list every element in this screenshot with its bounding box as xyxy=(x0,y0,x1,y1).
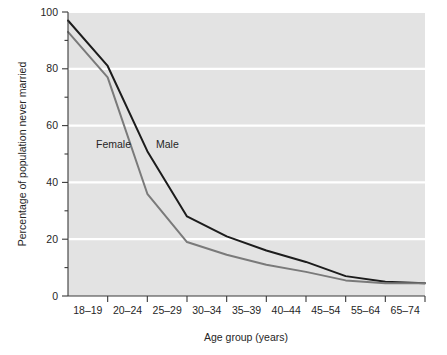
chart-container: 020406080100 18–1920–2425–2930–3435–3940… xyxy=(0,0,447,355)
x-axis-title: Age group (years) xyxy=(204,331,288,343)
y-tick-label: 40 xyxy=(46,176,58,188)
x-axis-tick-labels: 18–1920–2425–2930–3435–3940–4445–5455–64… xyxy=(73,304,420,316)
x-tick-label: 30–34 xyxy=(192,304,221,316)
line-chart: 020406080100 18–1920–2425–2930–3435–3940… xyxy=(0,0,447,355)
x-tick-label: 40–44 xyxy=(272,304,301,316)
x-axis-ticks xyxy=(108,296,425,302)
y-axis-title: Percentage of population never married xyxy=(16,62,28,247)
plot-background xyxy=(68,12,425,296)
x-tick-label: 55–64 xyxy=(351,304,380,316)
y-tick-label: 80 xyxy=(46,62,58,74)
x-tick-label: 65–74 xyxy=(391,304,420,316)
y-tick-label: 100 xyxy=(40,6,58,18)
series-label-female: Female xyxy=(96,138,131,150)
y-axis-ticks: 020406080100 xyxy=(40,6,68,302)
x-tick-label: 20–24 xyxy=(113,304,142,316)
series-label-male: Male xyxy=(156,138,179,150)
y-tick-label: 60 xyxy=(46,119,58,131)
x-tick-label: 35–39 xyxy=(232,304,261,316)
y-tick-label: 0 xyxy=(52,290,58,302)
x-tick-label: 25–29 xyxy=(153,304,182,316)
y-tick-label: 20 xyxy=(46,233,58,245)
x-tick-label: 45–54 xyxy=(311,304,340,316)
x-tick-label: 18–19 xyxy=(73,304,102,316)
